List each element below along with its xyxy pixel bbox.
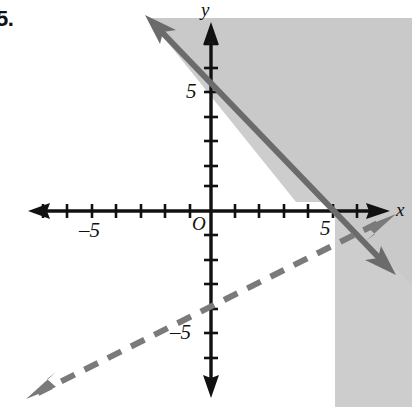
x-axis-label: x: [396, 199, 404, 221]
problem-number-label: 5.: [0, 6, 13, 32]
x-axis-tick-label-negative-five: –5: [79, 218, 100, 243]
y-axis-label: y: [201, 0, 209, 21]
coordinate-plane-svg: [0, 0, 412, 407]
x-axis-left-arrowhead: [28, 203, 50, 219]
y-axis-tick-label-negative-five: –5: [170, 320, 191, 345]
origin-label: O: [192, 213, 206, 235]
x-axis-tick-label-five: 5: [320, 216, 331, 241]
graph-figure: 5. y x O –5 5 5 –5: [0, 0, 412, 407]
dashed-line-lower-left-arrowhead: [26, 372, 56, 399]
y-axis-down-arrowhead: [203, 375, 219, 398]
y-axis-tick-label-five: 5: [186, 79, 197, 104]
